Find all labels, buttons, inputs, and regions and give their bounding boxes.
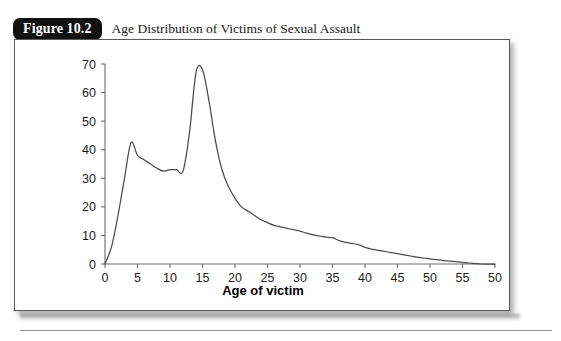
svg-text:10: 10 — [82, 229, 96, 243]
svg-text:60: 60 — [82, 86, 96, 100]
figure-header: Figure 10.2 Age Distribution of Victims … — [13, 15, 360, 42]
distribution-line-chart: 010203040506070 051015202530354045505550 — [15, 40, 511, 312]
svg-text:0: 0 — [89, 258, 96, 272]
bottom-divider-rule — [20, 330, 552, 331]
panel-drop-shadow — [20, 314, 520, 321]
figure-container: Figure 10.2 Age Distribution of Victims … — [0, 0, 561, 341]
svg-text:30: 30 — [82, 172, 96, 186]
svg-text:70: 70 — [82, 58, 96, 72]
x-axis: 051015202530354045505550 — [102, 264, 502, 285]
chart-panel: 010203040506070 051015202530354045505550… — [14, 39, 510, 311]
series-line-victims — [105, 65, 495, 264]
svg-text:20: 20 — [82, 200, 96, 214]
svg-text:50: 50 — [82, 115, 96, 129]
plot-area: 010203040506070 051015202530354045505550… — [15, 40, 511, 312]
figure-number-badge: Figure 10.2 — [13, 18, 102, 40]
x-axis-title: Age of victim — [15, 283, 511, 298]
y-axis: 010203040506070 — [82, 58, 105, 272]
svg-text:40: 40 — [82, 143, 96, 157]
figure-caption: Age Distribution of Victims of Sexual As… — [112, 21, 361, 37]
